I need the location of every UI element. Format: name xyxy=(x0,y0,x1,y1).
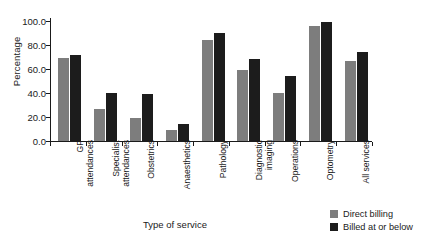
y-tick-label: 0.0 xyxy=(33,136,46,147)
y-tick-label: 60.0 xyxy=(28,64,47,75)
bar-group xyxy=(94,21,117,141)
bar xyxy=(285,76,296,141)
x-category-label: Specialistattendances xyxy=(112,140,128,202)
x-category-label: Pathology xyxy=(219,140,235,202)
x-category-label-line: Obstetrics xyxy=(147,140,157,202)
legend-item: Direct billing xyxy=(330,207,413,220)
bar xyxy=(357,52,368,141)
y-axis-tick-labels: 0.020.040.060.080.0100.0 xyxy=(8,15,46,147)
bar-group xyxy=(166,21,189,141)
bar xyxy=(214,33,225,141)
bar xyxy=(58,58,69,141)
legend-swatch xyxy=(330,210,338,218)
y-tick-label: 40.0 xyxy=(28,88,47,99)
legend-label: Billed at or below xyxy=(343,222,413,232)
bar-group xyxy=(345,21,368,141)
bar xyxy=(237,70,248,141)
bar xyxy=(94,109,105,141)
bar xyxy=(321,22,332,141)
x-category-label-line: imaging xyxy=(264,140,274,202)
bar xyxy=(70,55,81,141)
x-category-label-line: Pathology xyxy=(219,140,229,202)
x-category-label-line: attendances xyxy=(121,140,131,202)
x-category-label: Anaesthetics xyxy=(183,140,199,202)
x-category-label-line: Diagnostic xyxy=(255,140,265,202)
cropped-header-remnant xyxy=(120,0,240,5)
legend-item: Billed at or below xyxy=(330,220,413,233)
x-category-label: Optometry xyxy=(326,140,342,202)
bar-series-container xyxy=(50,21,372,141)
legend-swatch xyxy=(330,223,338,231)
bar xyxy=(345,61,356,141)
x-axis-title: Type of service xyxy=(50,219,300,230)
x-category-label-line: Anaesthetics xyxy=(183,140,193,202)
bar-chart-figure: Percentage 0.020.040.060.080.0100.0 GPat… xyxy=(0,0,436,240)
bar-group xyxy=(273,21,296,141)
bar xyxy=(309,26,320,141)
bar xyxy=(202,40,213,141)
bar-group xyxy=(309,21,332,141)
bar xyxy=(178,124,189,141)
y-tick-label: 100.0 xyxy=(22,16,46,27)
x-category-label: Operations xyxy=(291,140,307,202)
bar xyxy=(142,94,153,141)
bar-group xyxy=(58,21,81,141)
x-axis-line xyxy=(50,141,372,142)
x-category-label-line: All services xyxy=(362,140,372,202)
x-category-label-line: Operations xyxy=(291,140,301,202)
chart-legend: Direct billingBilled at or below xyxy=(330,207,413,233)
bar-group xyxy=(130,21,153,141)
plot-area xyxy=(50,21,372,141)
bar xyxy=(166,130,177,141)
x-category-label: Diagnosticimaging xyxy=(255,140,271,202)
x-category-label: GPattendances xyxy=(76,140,92,202)
bar xyxy=(130,118,141,141)
y-tick-label: 20.0 xyxy=(28,112,47,123)
x-category-label-line: Optometry xyxy=(326,140,336,202)
bar xyxy=(106,93,117,141)
bar xyxy=(273,93,284,141)
x-category-label: Obstetrics xyxy=(147,140,163,202)
x-category-label-line: attendances xyxy=(85,140,95,202)
legend-label: Direct billing xyxy=(343,209,393,219)
bar xyxy=(249,59,260,141)
x-category-label: All services xyxy=(362,140,378,202)
x-axis-category-labels: GPattendancesSpecialistattendancesObstet… xyxy=(50,144,380,206)
y-tick-label: 80.0 xyxy=(28,40,47,51)
bar-group xyxy=(202,21,225,141)
x-category-label-line: Specialist xyxy=(112,140,122,202)
bar-group xyxy=(237,21,260,141)
